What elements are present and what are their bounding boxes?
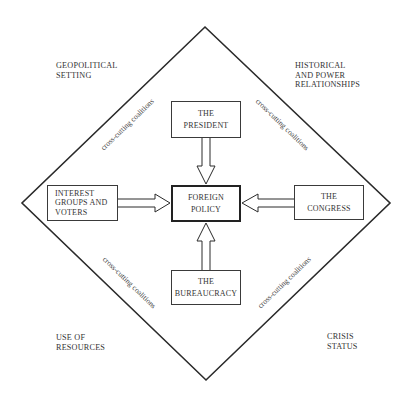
label-geopolitical-setting: GEOPOLITICAL SETTING (56, 61, 118, 80)
node-label-line: CONGRESS (307, 203, 350, 215)
label-line: STATUS (327, 342, 358, 352)
arrow-congress-to-policy (242, 194, 294, 212)
node-label-line: THE (321, 191, 337, 203)
node-congress: THE CONGRESS (294, 185, 364, 220)
label-crisis-status: CRISIS STATUS (327, 332, 358, 351)
label-use-of-resources: USE OF RESOURCES (56, 333, 105, 352)
node-label-line: THE (198, 276, 214, 288)
node-label-line: PRESIDENT (184, 120, 229, 132)
label-line: AND POWER (295, 71, 360, 81)
arrow-interest-to-policy (118, 194, 170, 212)
node-bureaucracy: THE BUREAUCRACY (171, 270, 241, 305)
node-foreign-policy: FOREIGN POLICY (171, 185, 241, 222)
label-line: RESOURCES (56, 343, 105, 353)
label-line: CRISIS (327, 332, 358, 342)
node-president: THE PRESIDENT (171, 101, 241, 138)
label-line: GEOPOLITICAL (56, 61, 118, 71)
label-line: RELATIONSHIPS (295, 80, 360, 90)
node-interest-groups: INTEREST GROUPS AND VOTERS (47, 185, 118, 221)
node-label-line: FOREIGN (188, 192, 224, 204)
node-label-line: BUREAUCRACY (175, 288, 238, 300)
label-line: USE OF (56, 333, 105, 343)
node-label-line: THE (198, 108, 214, 120)
node-label-line: GROUPS AND (55, 198, 107, 208)
label-line: HISTORICAL (295, 61, 360, 71)
node-label-line: POLICY (191, 204, 221, 216)
label-line: SETTING (56, 71, 118, 81)
node-label-line: INTEREST (55, 189, 94, 199)
arrow-president-to-policy (197, 138, 215, 184)
node-label-line: VOTERS (55, 208, 87, 218)
arrow-bureaucracy-to-policy (197, 223, 215, 270)
label-historical-power: HISTORICAL AND POWER RELATIONSHIPS (295, 61, 360, 90)
